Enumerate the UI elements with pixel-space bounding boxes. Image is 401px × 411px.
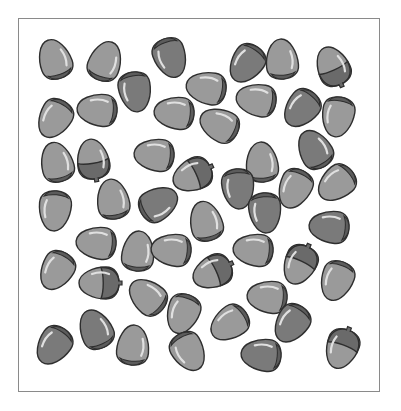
acorn-nut-icon (153, 95, 196, 130)
acorn-nut-icon (31, 94, 79, 145)
acorn-nut-icon (204, 299, 255, 348)
acorn-nut-icon (240, 337, 283, 372)
acorn-nut-icon (33, 35, 77, 84)
acorn-nut-icon (73, 304, 119, 354)
acorn-nut-icon (308, 209, 351, 244)
acorn-nut-icon (29, 320, 78, 371)
acorn-nut-icon (122, 271, 173, 321)
acorn-nut-icon (133, 137, 176, 172)
acorn-nut-icon (115, 324, 150, 367)
acorn-with-cap-icon (74, 137, 113, 185)
acorn-nut-icon (222, 38, 271, 89)
acorn-nut-icon (315, 257, 359, 306)
acorn-nut-icon (116, 70, 154, 115)
acorn-nut-icon (76, 92, 119, 127)
acorn-nut-icon (150, 232, 193, 267)
acorn-nut-icon (148, 34, 192, 83)
acorn-nut-icon (194, 102, 244, 148)
acorn-with-cap-icon (187, 248, 239, 295)
acorn-nut-icon (165, 327, 213, 378)
acorn-with-cap-icon (320, 322, 365, 373)
acorn-nut-icon (33, 246, 81, 297)
acorn-nut-icon (37, 190, 72, 233)
acorn-nut-icon (276, 83, 326, 134)
acorn-nut-icon (247, 192, 282, 235)
acorn-nut-icon (234, 81, 279, 119)
acorn-with-cap-icon (310, 41, 357, 93)
acorn-nut-icon (319, 95, 357, 140)
acorn-nut-icon (94, 177, 132, 222)
acorn-scene (0, 0, 401, 411)
acorn-nut-icon (36, 139, 77, 186)
acorn-nut-icon (75, 225, 118, 260)
acorn-nut-icon (120, 230, 155, 273)
acorn-with-cap-icon (79, 267, 122, 299)
acorn-nut-icon (264, 38, 299, 81)
acorn-nut-icon (185, 198, 226, 245)
acorn-nut-icon (232, 232, 275, 267)
acorn-with-cap-icon (277, 237, 324, 289)
